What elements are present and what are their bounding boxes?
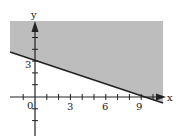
shaded-region: [10, 21, 163, 103]
inequality-graph: y x 0 3 6 9 3: [0, 0, 176, 140]
x-tick-label-3: 3: [67, 101, 73, 112]
y-tick-label-3: 3: [25, 59, 31, 70]
x-tick-label-6: 6: [102, 101, 108, 112]
x-tick-label-9: 9: [136, 101, 142, 112]
y-axis-label: y: [30, 9, 37, 20]
origin-label: 0: [27, 100, 33, 111]
x-axis-label: x: [167, 92, 173, 103]
